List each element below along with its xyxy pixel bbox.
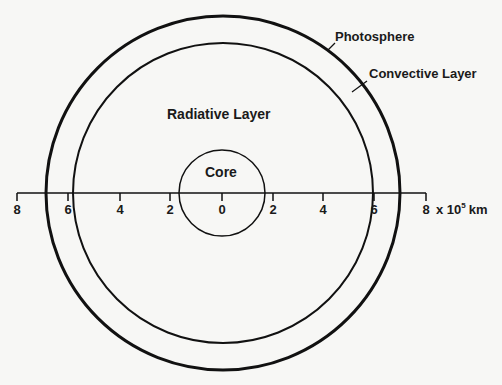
label-photosphere: Photosphere [335,29,414,44]
tick-label: 2 [269,202,276,217]
tick-label: 8 [13,202,20,217]
label-core: Core [205,164,237,180]
label-convective-layer: Convective Layer [369,66,477,81]
tick-label: 2 [166,202,173,217]
tick-label: 4 [319,202,327,217]
radius-axis: 8 6 4 2 0 2 4 6 8 x 105km [13,193,487,217]
axis-unit: x 105km [436,201,488,217]
sun-structure-diagram: 8 6 4 2 0 2 4 6 8 x 105km Radiative Laye… [0,0,502,385]
leader-photosphere [328,43,335,50]
tick-label: 4 [116,202,124,217]
tick-label: 8 [422,202,429,217]
tick-label: 6 [370,202,377,217]
tick-label: 6 [64,202,71,217]
label-radiative-layer: Radiative Layer [167,106,271,122]
tick-label: 0 [218,202,225,217]
